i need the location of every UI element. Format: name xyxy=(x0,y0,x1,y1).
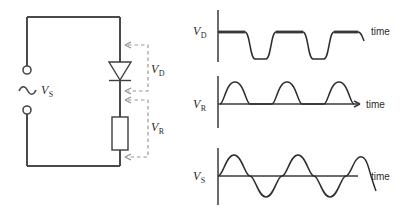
plot-vd: VD time xyxy=(193,10,390,62)
circuit-diagram: VS VD VR xyxy=(19,17,165,166)
rectifier-figure: VS VD VR VD time xyxy=(0,0,409,215)
plot-vs: VS time xyxy=(193,148,390,205)
source-label: VS xyxy=(41,83,53,99)
plot-vs-time-label: time xyxy=(371,171,390,182)
plot-vs-label: VS xyxy=(193,169,205,185)
diode-symbol xyxy=(109,62,131,88)
measurement-vd: VD xyxy=(125,42,165,94)
terminal-top xyxy=(23,66,31,74)
plot-vr-waveform xyxy=(220,82,354,104)
measurement-vr-label: VR xyxy=(151,120,165,136)
ac-source-icon xyxy=(19,87,36,94)
resistor-symbol xyxy=(112,117,128,150)
terminal-bottom xyxy=(23,106,31,114)
plot-vd-label: VD xyxy=(193,24,207,40)
plot-vd-waveform xyxy=(218,32,364,59)
plot-vr: VR time xyxy=(193,76,385,128)
measurement-vr: VR xyxy=(125,97,165,160)
measurement-vd-label: VD xyxy=(151,62,165,78)
plot-vr-time-label: time xyxy=(366,99,385,110)
plot-vd-time-label: time xyxy=(371,26,390,37)
plot-vr-label: VR xyxy=(193,97,207,113)
